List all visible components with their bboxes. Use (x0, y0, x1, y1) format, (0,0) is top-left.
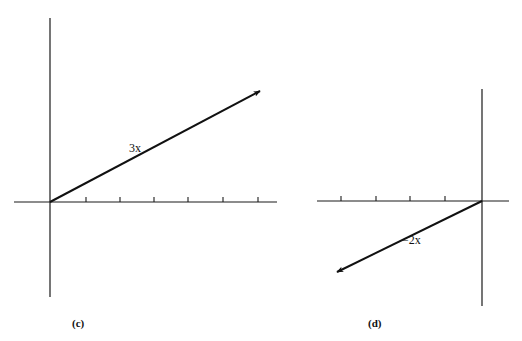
figure-d-caption: (d) (368, 317, 382, 330)
figure-c-vector-3x (50, 91, 260, 202)
figure-d-vector-label: −2x (402, 233, 421, 247)
figure-d-ticks (341, 196, 445, 201)
figure-c-ticks (86, 197, 258, 202)
figure-c-vector-label: 3x (129, 141, 141, 155)
figure-c-caption: (c) (72, 317, 85, 330)
vector-diagram-canvas: 3x (c) −2x (d) (0, 0, 522, 341)
figure-d: −2x (d) (317, 89, 509, 330)
figure-c: 3x (c) (14, 18, 277, 330)
